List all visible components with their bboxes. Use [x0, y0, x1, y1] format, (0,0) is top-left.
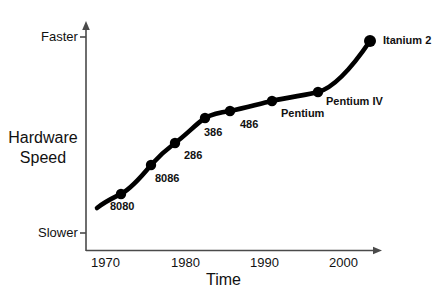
data-point-8086: [146, 160, 156, 170]
data-point-pentium-iv: [313, 87, 323, 97]
data-point-386: [200, 113, 210, 123]
x-tick-label-1990: 1990: [250, 256, 279, 269]
y-axis-title: Hardware Speed: [6, 128, 80, 167]
y-axis-low-label: Slower: [38, 226, 78, 239]
data-point-486: [225, 106, 235, 116]
annotation-8080: 8080: [110, 201, 134, 212]
annotation-8086: 8086: [155, 173, 179, 184]
annotation-286: 286: [184, 150, 202, 161]
data-point-pentium: [267, 96, 277, 106]
hardware-speed-chart: Faster Slower Hardware Speed 1970 1980 1…: [0, 0, 446, 300]
x-axis-arrowhead-icon: [373, 247, 382, 255]
x-tick-label-2000: 2000: [329, 256, 358, 269]
annotation-pentium-iv: Pentium IV: [326, 96, 383, 107]
y-axis-title-line-1: Hardware: [6, 128, 80, 148]
x-axis-title: Time: [206, 272, 241, 288]
x-tick-label-1970: 1970: [91, 256, 120, 269]
data-point-286: [170, 138, 180, 148]
annotation-386: 386: [204, 127, 222, 138]
x-tick-label-1980: 1980: [171, 256, 200, 269]
y-axis-high-label: Faster: [41, 30, 78, 43]
annotation-pentium: Pentium: [281, 108, 324, 119]
annotation-486: 486: [240, 119, 258, 130]
y-axis-arrowhead-icon: [82, 21, 90, 30]
data-point-8080: [116, 189, 126, 199]
y-axis-title-line-2: Speed: [6, 148, 80, 168]
data-point-itanium-2: [364, 35, 376, 47]
annotation-itanium-2: Itanium 2: [383, 35, 431, 46]
speed-trend-line: [97, 41, 370, 208]
